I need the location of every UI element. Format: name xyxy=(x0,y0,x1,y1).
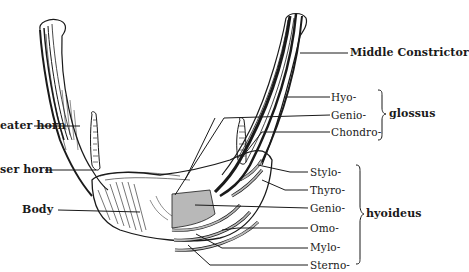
label-lesser-horn: ser horn xyxy=(0,164,53,176)
label-geniohyoideus: Genio- xyxy=(310,202,345,214)
label-sternohyoideus: Sterno- xyxy=(310,259,350,271)
label-chondroglossus: Chondro- xyxy=(331,126,381,138)
left-lesser-horn xyxy=(91,112,101,170)
label-genioglossus: Genio- xyxy=(331,109,366,121)
label-hyoideus-group: hyoideus xyxy=(366,208,422,220)
label-omohyoideus: Omo- xyxy=(310,222,339,234)
label-middle-constrictor: Middle Constrictor xyxy=(350,47,469,59)
label-mylohyoideus: Mylo- xyxy=(310,241,340,253)
label-glossus-group: glossus xyxy=(389,108,435,120)
label-stylohyoideus: Stylo- xyxy=(310,166,341,178)
right-greater-horn xyxy=(215,14,307,197)
label-greater-horn: eater horn xyxy=(0,120,66,132)
label-hyoglossus: Hyo- xyxy=(331,91,356,103)
label-body: Body xyxy=(22,204,53,216)
label-thyrohyoideus: Thyro- xyxy=(310,184,345,196)
